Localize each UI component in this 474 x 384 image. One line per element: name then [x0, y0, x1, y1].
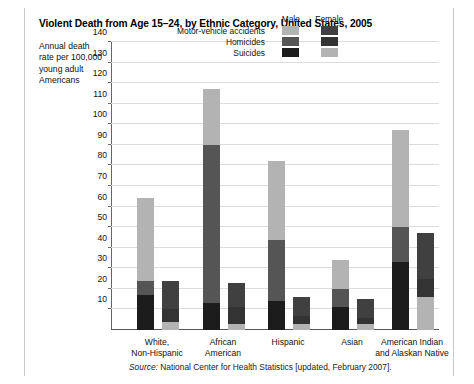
legend-swatch-male-cell	[272, 37, 310, 48]
y-axis-tick-label: 20	[97, 274, 107, 284]
legend-header-spacer	[177, 14, 272, 26]
source-text: National Center for Health Statistics [u…	[160, 362, 391, 372]
y-axis-tick-mark	[108, 226, 111, 227]
figure-panel: Violent Death from Age 15–24, by Ethnic …	[24, 8, 454, 376]
y-axis-tick-mark	[108, 164, 111, 165]
y-axis-tick-label: 110	[93, 89, 107, 99]
bar-group: American Indian and Alaskan Native	[392, 42, 434, 330]
bar-group: Hispanic	[268, 42, 310, 330]
legend-swatch-female	[321, 48, 338, 57]
y-axis-tick-mark	[108, 308, 111, 309]
source-prefix: Source:	[129, 362, 158, 372]
bar-segment-homicides	[228, 307, 245, 323]
legend-row: Motor-vehicle accidents	[177, 26, 349, 37]
y-axis-tick-label: 10	[97, 294, 107, 304]
legend-label: Homicides	[177, 37, 272, 48]
legend-swatch-female-cell	[310, 26, 349, 37]
y-axis-tick-mark	[108, 144, 111, 145]
x-axis-category-label: White, Non-Hispanic	[119, 337, 195, 359]
y-axis-tick-mark	[108, 185, 111, 186]
plot-area: 102030405060708090100110120130140 White,…	[111, 42, 439, 330]
bar-segment-homicides	[357, 318, 374, 324]
bar-segment-homicides	[417, 279, 434, 298]
legend-swatch-male	[282, 48, 299, 57]
bar-segment-suicides	[417, 297, 434, 330]
bar-female[interactable]	[417, 233, 434, 330]
bar-segment-suicides	[293, 324, 310, 330]
y-axis-tick-mark	[108, 267, 111, 268]
bar-segment-suicides	[392, 262, 409, 330]
bar-segment-homicides	[203, 145, 220, 303]
legend-label: Motor-vehicle accidents	[177, 26, 272, 37]
bar-male[interactable]	[203, 89, 220, 330]
bar-segment-suicides	[268, 301, 285, 330]
bar-segment-motor-vehicle	[392, 130, 409, 227]
y-axis-tick-label: 60	[97, 192, 107, 202]
y-axis-tick-mark	[108, 82, 111, 83]
legend-body: Motor-vehicle accidentsHomicidesSuicides	[177, 26, 349, 59]
y-axis-tick-mark	[108, 41, 111, 42]
bar-segment-suicides	[332, 307, 349, 330]
bar-male[interactable]	[137, 198, 154, 330]
y-axis-tick-label: 70	[97, 171, 107, 181]
bar-segment-motor-vehicle	[268, 161, 285, 239]
bar-group: African American	[203, 42, 245, 330]
legend-swatch-female-cell	[310, 37, 349, 48]
y-axis-tick-label: 40	[97, 233, 107, 243]
y-axis-tick-mark	[108, 103, 111, 104]
bar-female[interactable]	[228, 283, 245, 330]
y-axis-tick-mark	[108, 206, 111, 207]
y-axis-tick-label: 80	[97, 150, 107, 160]
y-axis-tick-mark	[108, 123, 111, 124]
bar-segment-suicides	[357, 324, 374, 330]
legend-label: Suicides	[177, 48, 272, 59]
y-axis-tick-label: 120	[93, 68, 107, 78]
bar-male[interactable]	[392, 130, 409, 330]
legend-swatch-female-cell	[310, 48, 349, 59]
legend-header-row: Male Female	[177, 14, 349, 26]
bar-segment-homicides	[268, 240, 285, 302]
legend-swatch-male	[282, 37, 299, 46]
legend-row: Suicides	[177, 48, 349, 59]
y-axis-tick-label: 140	[93, 27, 107, 37]
chart-legend: Male Female Motor-vehicle accidentsHomic…	[177, 14, 349, 59]
bar-segment-homicides	[392, 227, 409, 262]
bar-segment-suicides	[228, 324, 245, 330]
bar-group: Asian	[332, 42, 374, 330]
bar-male[interactable]	[268, 161, 285, 330]
bar-segment-motor-vehicle	[137, 198, 154, 280]
bar-segment-suicides	[203, 303, 220, 330]
y-axis-tick-label: 130	[93, 48, 107, 58]
bar-segment-motor-vehicle	[162, 281, 179, 310]
bar-segment-motor-vehicle	[357, 299, 374, 318]
bar-segment-homicides	[137, 281, 154, 295]
y-axis-tick-label: 30	[97, 253, 107, 263]
y-axis-tick-mark	[108, 247, 111, 248]
bar-female[interactable]	[357, 299, 374, 330]
bar-segment-motor-vehicle	[417, 233, 434, 278]
bar-female[interactable]	[293, 297, 310, 330]
x-axis-category-label: American Indian and Alaskan Native	[362, 337, 462, 359]
legend-row: Homicides	[177, 37, 349, 48]
y-axis-tick-label: 100	[93, 109, 107, 119]
bar-segment-homicides	[162, 309, 179, 321]
y-axis-tick-label: 50	[97, 212, 107, 222]
bar-segment-homicides	[332, 289, 349, 308]
y-axis-tick-label: 90	[97, 130, 107, 140]
legend-swatch-male	[282, 26, 299, 35]
bar-segment-motor-vehicle	[293, 297, 310, 316]
source-note: Source: National Center for Health Stati…	[129, 362, 392, 372]
y-axis-tick-mark	[108, 62, 111, 63]
bar-segment-suicides	[162, 322, 179, 330]
bar-segment-motor-vehicle	[203, 89, 220, 145]
legend-swatch-male-cell	[272, 48, 310, 59]
bar-segment-motor-vehicle	[228, 283, 245, 308]
legend-swatch-female	[321, 37, 338, 46]
bar-segment-motor-vehicle	[332, 260, 349, 289]
bar-segment-homicides	[293, 316, 310, 324]
bar-female[interactable]	[162, 281, 179, 330]
legend-header-female: Female	[310, 14, 349, 26]
y-axis-tick-mark	[108, 288, 111, 289]
plot-inner: 102030405060708090100110120130140 White,…	[111, 42, 439, 330]
bar-male[interactable]	[332, 260, 349, 330]
